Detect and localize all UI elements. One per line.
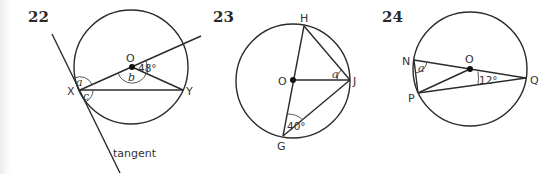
diagram-23: 23 H O J G a 40° xyxy=(213,8,356,153)
diagrams-canvas: 22 O 48° b a c X Y tangent 23 xyxy=(0,0,559,174)
point-y: Y xyxy=(185,85,193,98)
angle-a-24: a xyxy=(418,62,425,75)
point-o-22: O xyxy=(126,52,135,65)
question-number-23: 23 xyxy=(213,8,234,26)
point-g: G xyxy=(277,140,286,153)
center-dot-24 xyxy=(467,66,473,72)
angle-40: 40° xyxy=(287,120,306,132)
question-number-24: 24 xyxy=(382,8,403,26)
angle-b: b xyxy=(128,71,135,84)
point-j: J xyxy=(352,75,356,88)
point-o-23: O xyxy=(278,75,287,88)
point-o-24: O xyxy=(465,53,474,66)
point-x: X xyxy=(67,85,75,98)
point-q: Q xyxy=(530,74,539,87)
diagram-22: 22 O 48° b a c X Y tangent xyxy=(28,8,201,173)
point-p: P xyxy=(408,92,415,105)
angle-a-22: a xyxy=(76,76,83,89)
point-n: N xyxy=(402,55,410,68)
angle-48: 48° xyxy=(138,62,157,74)
tangent-label: tangent xyxy=(113,147,157,160)
center-dot-23 xyxy=(290,77,296,83)
circle-theorem-exercises: 22 O 48° b a c X Y tangent 23 xyxy=(0,0,559,174)
point-h: H xyxy=(300,12,308,25)
angle-12: 12° xyxy=(479,74,498,86)
angle-c: c xyxy=(83,90,89,103)
question-number-22: 22 xyxy=(28,8,49,26)
tangent-line xyxy=(52,34,120,173)
diagram-24: 24 N O P Q a 12° xyxy=(382,8,539,126)
angle-a-23: a xyxy=(332,68,339,81)
